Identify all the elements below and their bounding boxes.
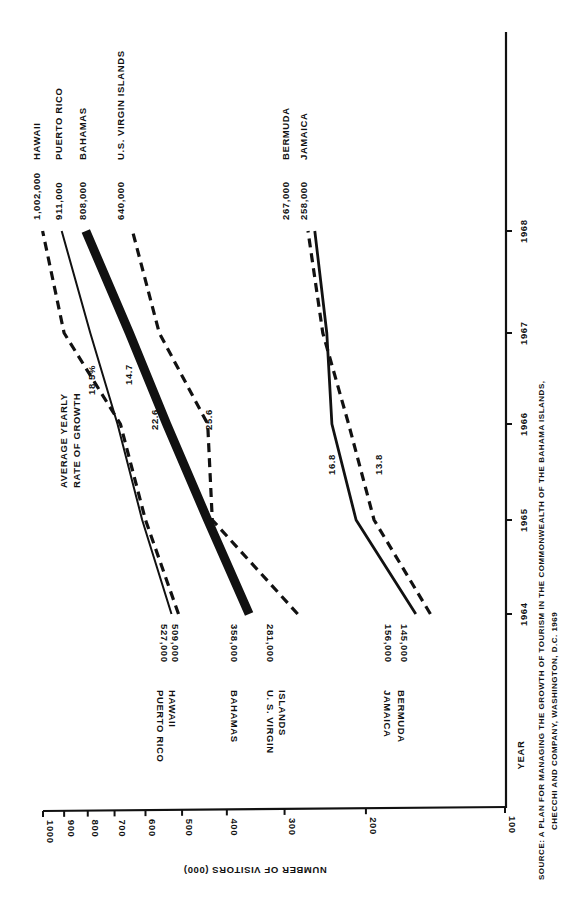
- start-value-label: 358,000: [229, 624, 240, 663]
- end-name-label: PUERTO RICO: [53, 88, 64, 160]
- year-tick-label: 1967: [518, 321, 529, 345]
- visitors-tick-label: 500: [184, 819, 195, 837]
- growth-rate-label: 22.6: [149, 409, 160, 430]
- start-value-label: 145,000: [399, 624, 410, 663]
- series-line-jamaica: [315, 231, 416, 614]
- series-line-bermuda: [308, 231, 430, 614]
- start-name-label: HAWAII: [167, 690, 178, 727]
- end-value-label: 267,000: [280, 181, 291, 220]
- start-name-label: BERMUDA: [396, 690, 407, 743]
- series-lines: [43, 231, 431, 614]
- end-name-label: BERMUDA: [280, 107, 291, 160]
- visitors-tick-label: 1000: [45, 820, 56, 844]
- labels: NUMBER OF VISITORS (000) YEAR AVERAGE YE…: [58, 381, 559, 880]
- source-line1: SOURCE: A PLAN FOR MANAGING THE GROWTH O…: [537, 381, 546, 880]
- start-name-label: U. S. VIRGIN: [265, 690, 276, 754]
- growth-rate-label: 25.6: [203, 409, 214, 430]
- year-tick-label: 1968: [518, 219, 529, 243]
- growth-rate-label: 13.8: [373, 454, 384, 475]
- end-value-label: 808,000: [77, 181, 88, 220]
- start-name-label: ISLANDS: [277, 690, 288, 736]
- end-value-label: 911,000: [53, 182, 64, 220]
- visitors-tick-label: 600: [147, 819, 158, 837]
- visitors-tick-label: 100: [507, 816, 518, 834]
- series-line-bahamas: [86, 231, 249, 614]
- visitors-axis-title: NUMBER OF VISITORS (000): [183, 865, 327, 876]
- series-labels: 1,002,000HAWAII911,000PUERTO RICO808,000…: [31, 50, 410, 762]
- source-line2: CHECCHI AND COMPANY, WASHINGTON, D.C. 19…: [550, 612, 559, 830]
- start-name-label: PUERTO RICO: [155, 690, 166, 762]
- visitors-axis-ticks: 1000900800700600500400300200100: [43, 807, 518, 844]
- tourism-growth-chart: 1000900800700600500400300200100 19641965…: [0, 0, 565, 919]
- end-value-label: 640,000: [115, 181, 126, 220]
- end-name-label: BAHAMAS: [77, 107, 88, 160]
- start-value-label: 156,000: [383, 624, 394, 663]
- visitors-tick-label: 900: [66, 820, 77, 838]
- year-axis-title: YEAR: [515, 741, 526, 770]
- visitors-tick-label: 300: [287, 818, 298, 836]
- visitors-tick-label: 200: [368, 817, 379, 835]
- year-axis-ticks: 19641965196619671968: [506, 219, 529, 626]
- end-value-label: 1,002,000: [31, 172, 42, 220]
- year-tick-label: 1966: [518, 412, 529, 436]
- start-name-label: BAHAMAS: [229, 690, 240, 743]
- end-name-label: HAWAII: [31, 123, 42, 160]
- start-value-label: 509,000: [170, 624, 181, 663]
- end-value-label: 258,000: [298, 181, 309, 220]
- visitors-tick-label: 800: [90, 820, 101, 838]
- end-name-label: JAMAICA: [298, 113, 309, 160]
- growth-rate-label: 16.8: [326, 454, 337, 475]
- start-value-label: 281,000: [265, 624, 276, 663]
- growth-rate-label: 18.5%: [86, 365, 97, 395]
- start-name-label: JAMAICA: [382, 690, 393, 737]
- growth-rate-label: 14.7: [123, 364, 134, 385]
- year-tick-label: 1965: [518, 508, 529, 532]
- start-value-label: 527,000: [159, 624, 170, 663]
- year-tick-label: 1964: [518, 602, 529, 626]
- visitors-axis-line: [43, 807, 507, 811]
- end-name-label: U.S. VIRGIN ISLANDS: [115, 50, 126, 160]
- growth-header-line2: RATE OF GROWTH: [71, 393, 82, 488]
- growth-header-line1: AVERAGE YEARLY: [58, 393, 69, 488]
- visitors-tick-label: 700: [117, 819, 128, 837]
- visitors-tick-label: 400: [229, 818, 240, 836]
